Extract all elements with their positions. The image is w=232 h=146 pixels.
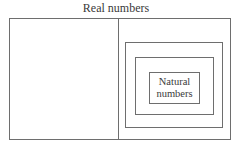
real-numbers-divider: [118, 18, 119, 140]
diagram-title: Real numbers: [0, 1, 232, 15]
natural-numbers-label-line2: numbers: [149, 88, 200, 100]
natural-numbers-label: Natural numbers: [149, 76, 200, 100]
natural-numbers-label-line1: Natural: [149, 76, 200, 88]
